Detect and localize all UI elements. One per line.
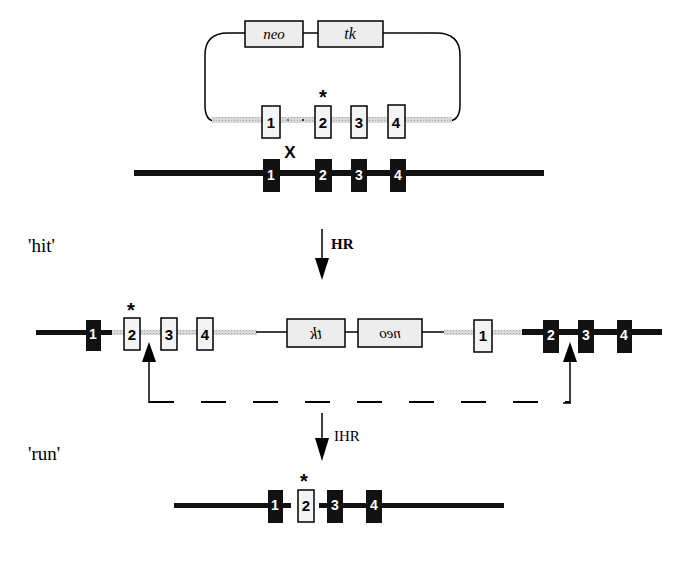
arrow-up-icon [142,342,156,362]
svg-text:2: 2 [319,167,327,183]
hr-label: HR [331,236,354,252]
final-exon-2-mutant: 2 [298,490,314,522]
locus-exon-4: 4 [390,159,406,192]
locus-exon-3: 3 [351,159,367,192]
integrated-exon-3-open: 3 [161,318,177,350]
svg-text:1: 1 [479,327,487,344]
mutation-asterisk: * [319,86,327,108]
svg-text:3: 3 [355,114,363,131]
integrated-exon-1-filled: 1 [86,320,101,351]
neo-gene-box-reversed: neo [358,319,422,347]
mutation-asterisk: * [300,470,308,492]
hit-label: 'hit' [28,235,55,256]
svg-text:2: 2 [319,114,327,131]
arrow-up-icon [563,342,577,362]
svg-text:3: 3 [165,326,173,343]
svg-text:4: 4 [370,497,378,513]
final-exon-4: 4 [366,490,382,523]
ihr-arrow: IHR [315,413,360,461]
locus-exon-2: 2 [315,159,332,192]
ihr-recombination-path [142,342,577,403]
svg-text:2: 2 [302,497,310,514]
genomic-locus: 1 2 3 4 [134,159,544,192]
mutation-asterisk: * [127,299,135,321]
svg-text:3: 3 [355,167,363,183]
vector-exon-3: 3 [351,106,367,138]
svg-text:4: 4 [620,327,628,343]
integrated-vector-exon-1: 1 [474,320,492,352]
vector-backbone-right [421,33,460,121]
vector-exon-1: 1 [262,106,280,138]
final-exon-3: 3 [327,490,343,523]
vector-exon-2: 2 [315,106,331,138]
tk-gene-box: tk [318,21,383,47]
svg-text:1: 1 [271,497,279,513]
svg-text:1: 1 [267,167,275,183]
vector-exon-4: 4 [388,105,405,138]
tk-label: tk [344,25,356,42]
svg-text:4: 4 [201,326,210,343]
tk-gene-box-reversed: tk [287,319,345,347]
targeting-vector: neo tk 1 2 * 3 4 X [205,21,460,162]
svg-text:3: 3 [582,327,590,343]
svg-text:4: 4 [392,114,401,131]
hit-and-run-diagram: neo tk 1 2 * 3 4 X [0,0,686,562]
crossover-x: X [284,143,296,162]
integrated-locus: 1 2 * 3 4 tk neo 1 2 [36,299,662,353]
locus-exon-1: 1 [263,159,280,192]
final-locus: 1 2 * 3 4 [174,470,504,523]
svg-text:2: 2 [547,327,555,343]
ihr-label: IHR [334,428,360,444]
svg-text:4: 4 [394,167,402,183]
integrated-exon-3-filled: 3 [578,320,594,353]
integrated-exon-4-filled: 4 [617,320,632,353]
vector-backbone-left [205,33,245,121]
vector-homology-arm [212,117,452,123]
svg-text:1: 1 [267,114,275,131]
svg-text:neo: neo [379,325,401,341]
integrated-exon-2-filled: 2 [543,320,559,353]
svg-text:2: 2 [128,326,136,343]
neo-gene-box: neo [245,21,303,47]
neo-label: neo [263,26,285,42]
hr-arrow: HR [315,229,354,280]
svg-text:3: 3 [331,497,339,513]
svg-text:1: 1 [89,326,97,342]
integrated-exon-4-open: 4 [197,318,213,350]
svg-text:tk: tk [309,325,321,342]
final-exon-1: 1 [268,490,283,523]
integrated-exon-2-mutant: 2 [124,318,140,350]
run-label: 'run' [28,443,60,464]
